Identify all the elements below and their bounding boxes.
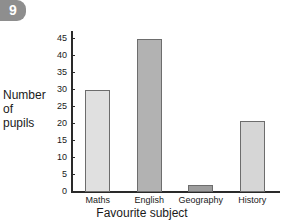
plot-area: [72, 32, 278, 192]
x-axis-label-history: History: [227, 195, 279, 206]
x-axis-label-english: English: [124, 195, 176, 206]
y-axis-title-line-1: Number: [3, 88, 69, 102]
bar-chart: 051015202530354045 MathsEnglishGeography…: [0, 0, 284, 222]
y-axis-tick-label: 40: [49, 51, 67, 60]
y-axis-tick-label: 15: [49, 136, 67, 145]
bar-history: [240, 121, 265, 192]
y-axis-title-line-2: of: [3, 102, 69, 116]
x-axis-title: Favourite subject: [0, 206, 284, 220]
y-axis-title: Number of pupils: [3, 88, 69, 130]
x-axis-label-maths: Maths: [72, 195, 124, 206]
y-axis-title-line-3: pupils: [3, 116, 69, 130]
bar-maths: [85, 90, 110, 192]
y-axis-tick-label: 35: [49, 68, 67, 77]
y-axis-tick-label: 5: [49, 170, 67, 179]
x-axis-label-geography: Geography: [175, 195, 227, 206]
bar-geography: [188, 185, 213, 192]
bar-english: [137, 39, 162, 192]
y-axis-tick-label: 45: [49, 34, 67, 43]
y-axis-tick-label: 10: [49, 153, 67, 162]
y-axis-tick-label: 0: [49, 187, 67, 196]
